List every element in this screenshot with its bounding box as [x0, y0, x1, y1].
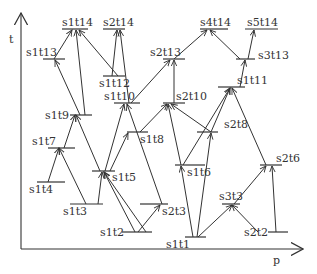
node-s1t3: s1t3 [63, 204, 103, 218]
edge-arrow [131, 60, 170, 103]
node-label: s1t7 [32, 135, 56, 148]
node-label: s1t9 [45, 109, 69, 122]
node-s2t2: s2t2 [244, 226, 288, 239]
edge-arrow [59, 148, 86, 204]
node-label: s1t1 [166, 238, 190, 251]
node-label: s1t14 [62, 16, 93, 29]
node-s1t7: s1t7 [32, 135, 75, 148]
edge-arrow [48, 148, 59, 182]
node-label: s1t10 [104, 90, 135, 103]
edge-arrow [171, 104, 211, 132]
edge-arrow [110, 133, 128, 171]
node-label: s4t14 [200, 16, 231, 29]
node-label: s2t2 [244, 226, 268, 239]
nodes: s1t1s1t2s2t2s1t3s2t3s3t3s1t4s1t5s1t6s2t6… [26, 16, 300, 251]
edge-arrow [76, 30, 85, 115]
node-label: s2t13 [150, 46, 181, 59]
node-s2t13: s2t13 [150, 46, 185, 59]
node-s1t4: s1t4 [29, 182, 65, 196]
edge-arrow [55, 60, 80, 115]
node-label: s2t10 [176, 90, 207, 103]
edge-arrow [140, 104, 167, 132]
node-s1t13: s1t13 [26, 46, 65, 59]
petri-net-diagram: t p s1t1s1t2s2t2s1t3s2t3s3t3s1t4s1t5s1t6… [0, 0, 317, 274]
node-s5t14: s5t14 [245, 16, 278, 29]
node-label: s2t14 [103, 16, 134, 29]
node-s1t5: s1t5 [92, 171, 136, 184]
node-label: s5t14 [247, 16, 278, 29]
node-s1t2: s1t2 [100, 226, 152, 239]
edge-arrow [168, 104, 181, 165]
edge-arrow [127, 104, 162, 204]
node-s1t12: s1t12 [99, 76, 130, 90]
node-label: s3t13 [258, 49, 289, 62]
edge-arrow [138, 205, 160, 232]
node-label: s1t3 [63, 205, 87, 218]
edge-arrow [76, 115, 100, 171]
node-s4t14: s4t14 [200, 16, 231, 29]
edge-arrow [272, 166, 276, 232]
node-label: s3t3 [219, 190, 243, 203]
edge-arrow [248, 30, 254, 59]
node-label: s1t12 [99, 77, 130, 90]
node-s1t14: s1t14 [62, 16, 93, 29]
node-s1t11: s1t11 [218, 74, 268, 87]
node-s1t10: s1t10 [104, 90, 140, 103]
node-label: s2t8 [224, 118, 248, 131]
node-label: s1t13 [26, 46, 57, 59]
node-label: s2t3 [162, 205, 186, 218]
node-label: s1t8 [140, 133, 164, 146]
node-s2t14: s2t14 [103, 16, 134, 29]
edge-arrow [79, 30, 118, 76]
edge-arrow [198, 205, 232, 237]
edge-arrow [98, 172, 102, 204]
node-s2t10: s2t10 [163, 90, 207, 103]
p-axis-label: p [273, 254, 280, 267]
node-label: s1t6 [187, 166, 211, 179]
node-label: s1t11 [237, 74, 268, 87]
node-s2t6: s2t6 [260, 152, 300, 165]
node-label: s1t5 [112, 171, 136, 184]
node-s3t13: s3t13 [236, 49, 289, 62]
node-s2t3: s2t3 [140, 204, 186, 218]
node-s1t6: s1t6 [175, 165, 211, 179]
node-s3t3: s3t3 [219, 190, 243, 204]
edge-arrow [197, 133, 211, 237]
edge-arrow [210, 30, 240, 59]
node-label: s1t4 [29, 183, 53, 196]
node-s1t8: s1t8 [127, 132, 164, 146]
node-label: s1t2 [100, 226, 124, 239]
node-label: s2t6 [276, 152, 300, 165]
t-axis-label: t [9, 33, 14, 46]
